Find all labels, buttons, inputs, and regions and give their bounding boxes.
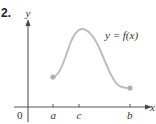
origin-label: 0 — [17, 109, 23, 121]
y-axis-label: y — [25, 7, 31, 19]
x-axis-label: x — [149, 101, 155, 113]
curve-label: y = f(x) — [104, 29, 138, 42]
endpoint-b — [127, 85, 132, 90]
endpoint-a — [50, 74, 55, 79]
tick-label-a: a — [51, 109, 57, 121]
tick-label-c: c — [77, 109, 82, 121]
y-axis-arrow-icon — [26, 19, 31, 26]
function-graph: y x 0 a c b y = f(x) — [0, 0, 156, 124]
tick-label-b: b — [127, 109, 133, 121]
